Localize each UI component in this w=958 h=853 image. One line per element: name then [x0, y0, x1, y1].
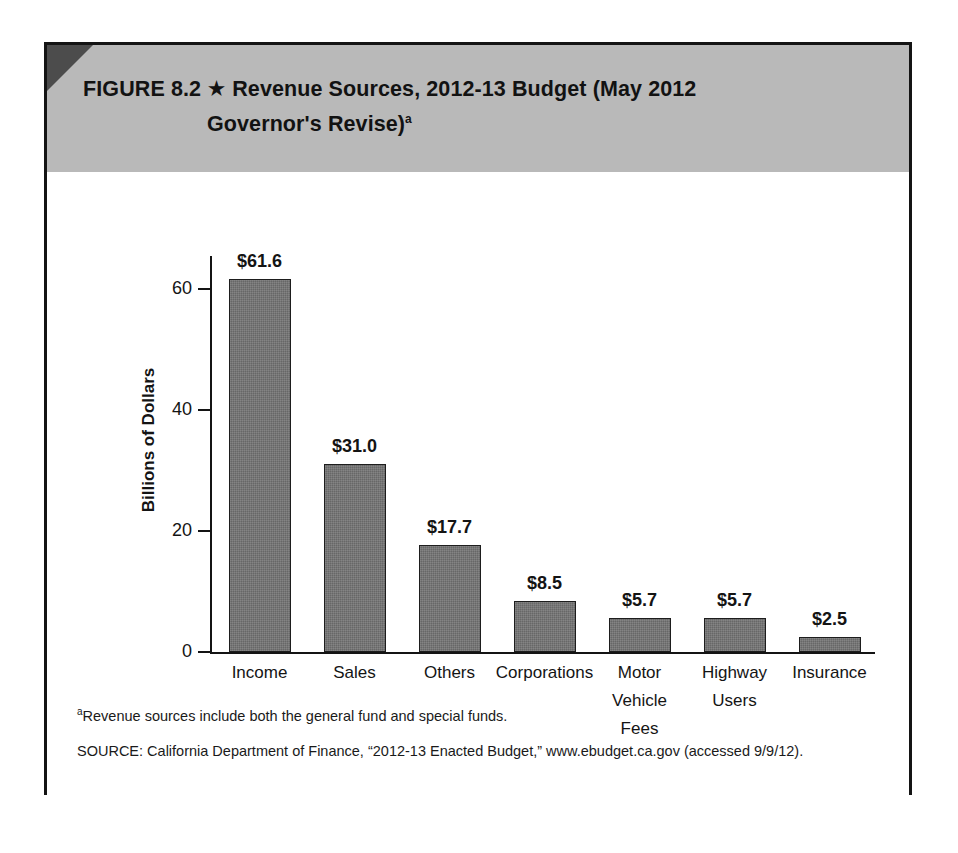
- figure-number: FIGURE 8.2: [83, 77, 201, 101]
- bar[interactable]: [514, 601, 576, 652]
- bar[interactable]: [419, 545, 481, 652]
- bar-value-label: $31.0: [295, 436, 415, 457]
- figure-title-line-2-wrap: Governor's Revise)a: [83, 107, 883, 142]
- star-icon: ★: [201, 78, 232, 99]
- bar[interactable]: [229, 279, 291, 652]
- bar-value-label: $2.5: [770, 609, 890, 630]
- bar[interactable]: [704, 618, 766, 652]
- figure-notes: aRevenue sources include both the genera…: [77, 704, 883, 763]
- bar[interactable]: [324, 464, 386, 652]
- figure-title-line-2: Governor's Revise): [207, 112, 405, 136]
- bar[interactable]: [799, 637, 861, 652]
- figure-title-footnote-marker: a: [405, 112, 412, 126]
- bar-value-label: $5.7: [675, 590, 795, 611]
- figure-header-band: FIGURE 8.2★Revenue Sources, 2012-13 Budg…: [47, 45, 909, 172]
- figure-footnote: aRevenue sources include both the genera…: [77, 704, 883, 728]
- figure-frame: FIGURE 8.2★Revenue Sources, 2012-13 Budg…: [44, 42, 912, 795]
- bar-value-label: $61.6: [200, 251, 320, 272]
- footnote-text: Revenue sources include both the general…: [83, 708, 508, 724]
- figure-title: FIGURE 8.2★Revenue Sources, 2012-13 Budg…: [83, 71, 883, 142]
- bar[interactable]: [609, 618, 671, 652]
- figure-source: SOURCE: California Department of Finance…: [77, 739, 883, 763]
- x-axis-category-label: Insurance: [764, 659, 896, 687]
- figure-title-line-1: Revenue Sources, 2012-13 Budget (May 201…: [232, 77, 696, 101]
- bar-value-label: $17.7: [390, 517, 510, 538]
- x-axis-category-label-line: Insurance: [764, 659, 896, 687]
